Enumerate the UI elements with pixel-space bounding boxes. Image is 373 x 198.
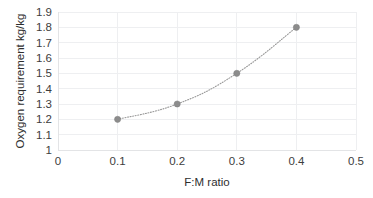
data-point-marker [234,70,240,76]
y-axis-title: Oxygen requirement kg/kg [14,14,26,149]
data-point-marker [293,24,299,30]
oxygen-requirement-line-chart: 11.11.21.31.41.51.61.71.81.9 00.10.20.30… [0,0,373,198]
y-tick-label: 1 [46,144,52,156]
x-tick-label: 0.4 [288,155,305,167]
y-tick-label: 1.1 [36,129,52,141]
y-tick-label: 1.6 [36,52,52,64]
x-tick-label: 0.2 [169,155,185,167]
y-tick-label: 1.7 [36,37,52,49]
data-point-marker [115,116,121,122]
y-tick-label: 1.3 [36,98,52,110]
y-tick-label: 1.5 [36,67,52,79]
x-tick-label: 0.1 [110,155,126,167]
x-tick-label: 0 [55,155,61,167]
chart-container: 11.11.21.31.41.51.61.71.81.9 00.10.20.30… [0,0,373,198]
y-tick-label: 1.4 [36,83,53,95]
x-tick-label: 0.5 [348,155,364,167]
y-tick-label: 1.9 [36,6,52,18]
x-axis-title: F:M ratio [184,176,229,188]
y-tick-label: 1.8 [36,21,52,33]
data-point-marker [174,101,180,107]
x-tick-label: 0.3 [229,155,245,167]
chart-background [0,0,373,198]
y-tick-label: 1.2 [36,113,52,125]
